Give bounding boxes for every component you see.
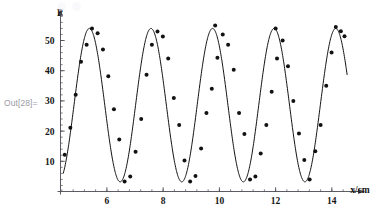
data-point[interactable] [134, 150, 138, 154]
data-point[interactable] [172, 96, 176, 100]
x-axis-label: x/cm [350, 185, 370, 195]
data-point[interactable] [253, 174, 257, 178]
data-point[interactable] [302, 158, 306, 162]
data-point[interactable] [161, 35, 165, 39]
data-point[interactable] [145, 73, 149, 77]
data-point[interactable] [281, 39, 285, 43]
y-axis-tick-labels: 1020304050 [45, 36, 55, 167]
data-point[interactable] [242, 132, 246, 136]
axes-group [58, 9, 365, 194]
notebook-output-cell: Out[28]= 68101214 1020304050 P x/cm [0, 0, 383, 208]
data-point[interactable] [213, 23, 217, 27]
data-point[interactable] [112, 107, 116, 111]
x-tick-label: 10 [215, 196, 225, 206]
data-point[interactable] [177, 123, 181, 127]
data-point[interactable] [210, 87, 214, 91]
data-point[interactable] [343, 34, 347, 38]
data-point[interactable] [166, 57, 170, 61]
scan-artifact [72, 2, 81, 11]
data-point[interactable] [215, 56, 219, 60]
data-point[interactable] [291, 99, 295, 103]
data-point[interactable] [319, 123, 323, 127]
data-point[interactable] [123, 180, 127, 184]
y-tick-label: 10 [45, 157, 55, 167]
data-point[interactable] [188, 180, 192, 184]
data-point[interactable] [259, 151, 263, 155]
data-point[interactable] [204, 111, 208, 115]
x-tick-label: 12 [271, 196, 281, 206]
data-point[interactable] [193, 174, 197, 178]
data-point[interactable] [313, 149, 317, 153]
data-point[interactable] [334, 25, 338, 29]
data-point[interactable] [96, 31, 100, 35]
data-point[interactable] [199, 147, 203, 151]
data-point[interactable] [226, 43, 230, 47]
scan-artifact [57, 2, 66, 11]
data-point[interactable] [248, 177, 252, 181]
data-point[interactable] [156, 29, 160, 33]
data-point[interactable] [106, 74, 110, 78]
scatter-plot-with-sinusoidal-fit[interactable]: 68101214 1020304050 P x/cm [0, 0, 383, 208]
x-tick-label: 14 [327, 196, 337, 206]
y-tick-label: 40 [45, 66, 55, 76]
data-point[interactable] [270, 90, 274, 94]
data-point[interactable] [339, 29, 343, 33]
data-point[interactable] [150, 43, 154, 47]
y-axis-ticks [61, 16, 65, 185]
data-point[interactable] [237, 111, 241, 115]
y-tick-label: 30 [45, 96, 55, 106]
x-axis-ticks [62, 187, 354, 191]
data-point[interactable] [183, 158, 187, 162]
x-axis-tick-labels: 68101214 [105, 196, 337, 206]
data-point[interactable] [221, 32, 225, 36]
data-point[interactable] [274, 26, 278, 30]
data-point[interactable] [68, 126, 72, 130]
data-point[interactable] [330, 51, 334, 55]
data-point[interactable] [286, 64, 290, 68]
y-tick-label: 50 [45, 36, 55, 46]
data-point[interactable] [264, 123, 268, 127]
data-point[interactable] [324, 84, 328, 88]
data-point[interactable] [128, 174, 132, 178]
data-point[interactable] [308, 177, 312, 181]
plot-canvas[interactable]: 68101214 1020304050 P x/cm [0, 0, 383, 208]
data-point[interactable] [139, 117, 143, 121]
data-point[interactable] [232, 68, 236, 72]
y-tick-label: 20 [45, 127, 55, 137]
data-point[interactable] [79, 60, 83, 64]
data-points[interactable] [63, 23, 347, 183]
data-point[interactable] [85, 43, 89, 47]
x-tick-label: 8 [161, 196, 166, 206]
data-point[interactable] [74, 93, 78, 97]
data-point[interactable] [63, 153, 67, 157]
data-point[interactable] [297, 132, 301, 136]
data-point[interactable] [117, 138, 121, 142]
data-point[interactable] [90, 26, 94, 30]
data-point[interactable] [101, 48, 105, 52]
x-tick-label: 6 [105, 196, 110, 206]
data-point[interactable] [275, 57, 279, 61]
